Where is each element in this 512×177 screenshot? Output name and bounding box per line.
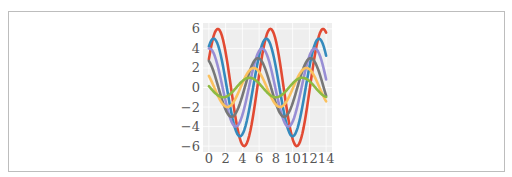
x-tick-label: 8	[272, 151, 280, 166]
y-tick-label: −4	[181, 119, 200, 134]
y-tick-label: 6	[192, 21, 200, 36]
y-tick-label: 2	[192, 60, 200, 75]
x-tick-label: 6	[255, 151, 263, 166]
x-tick-label: 14	[318, 151, 335, 166]
y-tick-label: −2	[181, 100, 200, 115]
x-tick-label: 4	[238, 151, 246, 166]
sine-line-chart: 6420−2−4−6 02468101214	[0, 0, 512, 177]
x-tick-label: 0	[205, 151, 213, 166]
x-tick-label: 10	[284, 151, 301, 166]
y-axis-ticks: 6420−2−4−6	[181, 21, 200, 153]
y-tick-label: 4	[192, 41, 200, 56]
x-axis-ticks: 02468101214	[205, 151, 335, 166]
y-tick-label: −6	[181, 139, 200, 154]
x-tick-label: 2	[221, 151, 229, 166]
x-tick-label: 12	[301, 151, 318, 166]
y-tick-label: 0	[192, 80, 200, 95]
